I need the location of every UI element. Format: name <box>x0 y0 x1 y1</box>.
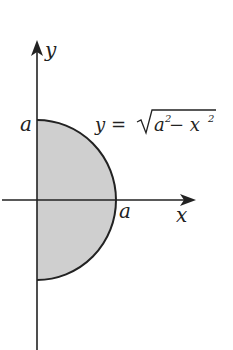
y-axis-label: y <box>44 38 57 62</box>
equation-lhs: y = <box>94 114 126 135</box>
equation-exp-2: 2 <box>207 113 214 124</box>
x-axis-label: x <box>176 203 187 227</box>
top-intercept-label: a <box>20 112 32 136</box>
right-intercept-label: a <box>119 199 131 223</box>
equation-minus-x: − x <box>169 114 200 135</box>
equation: y = a 2 − x 2 <box>94 110 216 135</box>
equation-radicand-a: a <box>154 114 165 135</box>
semicircle-diagram: y x a a y = a 2 − x 2 <box>0 0 233 350</box>
